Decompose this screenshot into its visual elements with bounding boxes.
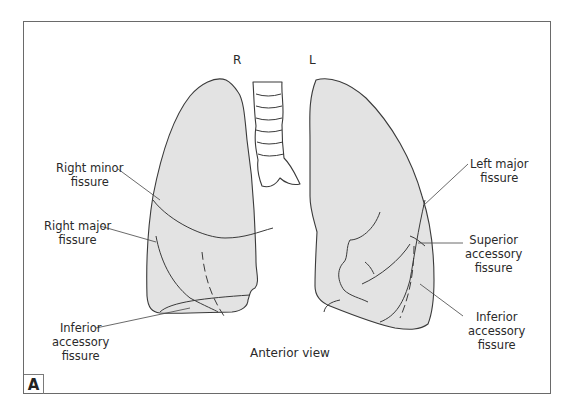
right-side-label: R [233, 53, 241, 67]
left-side-label: L [309, 53, 316, 67]
label-left-major-fissure: Left major fissure [470, 157, 529, 185]
trachea [253, 82, 300, 187]
label-right-major-fissure: Right major fissure [44, 219, 111, 247]
right-lung [147, 79, 258, 313]
label-superior-accessory-fissure-left: Superior accessory fissure [465, 233, 522, 275]
label-inferior-accessory-fissure-left: Inferior accessory fissure [468, 310, 525, 352]
label-right-minor-fissure: Right minor fissure [56, 161, 123, 189]
label-inferior-accessory-fissure-right: Inferior accessory fissure [52, 321, 109, 363]
panel-label: A [24, 374, 44, 394]
figure-caption: Anterior view [250, 346, 330, 360]
left-lung [310, 79, 434, 329]
